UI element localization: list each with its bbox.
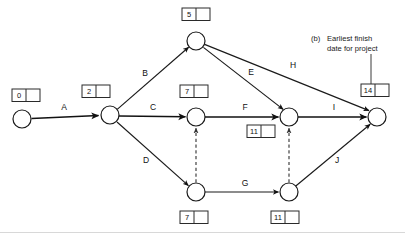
network-diagram: 0 2 5 7 11	[0, 0, 405, 240]
activity-label-b: B	[142, 68, 148, 78]
activity-label-e: E	[248, 67, 254, 77]
event-box-value: 14	[364, 86, 372, 95]
node-top[interactable]	[187, 32, 205, 50]
activity-label-h: H	[290, 60, 296, 70]
activity-label-d: D	[143, 155, 149, 165]
event-box-value: 5	[187, 10, 191, 19]
event-box-after-a[interactable]: 2	[82, 85, 110, 98]
event-box-value: 11	[274, 213, 282, 222]
event-box-value: 0	[17, 91, 21, 100]
event-box-finish[interactable]: 14	[361, 84, 389, 97]
event-box-start[interactable]: 0	[12, 89, 40, 102]
edge-activity-b	[117, 47, 188, 109]
annotation-prefix: (b)	[311, 34, 321, 43]
edge-activity-c	[119, 116, 186, 117]
node-lower-right[interactable]	[280, 183, 298, 201]
activity-label-c: C	[150, 102, 156, 112]
activity-label-i: I	[333, 102, 335, 112]
activity-label-f: F	[242, 102, 247, 112]
activity-label-g: G	[242, 178, 249, 188]
edge-activity-h	[205, 44, 369, 110]
event-box-value: 7	[185, 87, 189, 96]
annotation-line-1: Earliest finish	[327, 34, 372, 43]
annotation-line-2: date for project	[327, 44, 379, 53]
node-right-middle[interactable]	[280, 108, 298, 126]
event-box-lower-middle[interactable]: 7	[180, 211, 208, 224]
event-box-lower-right[interactable]: 11	[271, 211, 299, 224]
node-lower-middle[interactable]	[187, 183, 205, 201]
event-box-top[interactable]: 5	[182, 8, 210, 21]
event-box-value: 11	[250, 127, 258, 136]
event-box-value: 2	[87, 87, 91, 96]
node-start[interactable]	[13, 110, 31, 128]
edge-activity-d	[117, 122, 188, 186]
event-box-middle[interactable]: 7	[180, 85, 208, 98]
event-box-value: 7	[185, 213, 189, 222]
activity-label-a: A	[61, 102, 67, 112]
annotation-earliest-finish: (b) Earliest finish date for project	[311, 34, 379, 53]
node-middle[interactable]	[187, 108, 205, 126]
activity-label-j: J	[335, 155, 339, 165]
network-diagram-canvas: 0 2 5 7 11	[0, 0, 405, 240]
node-after-a[interactable]	[101, 106, 119, 124]
edge-activity-a	[32, 116, 99, 119]
event-box-right-middle[interactable]: 11	[247, 125, 275, 138]
edge-activity-j	[296, 124, 370, 186]
node-finish[interactable]	[368, 108, 386, 126]
edge-activity-e	[203, 47, 283, 109]
